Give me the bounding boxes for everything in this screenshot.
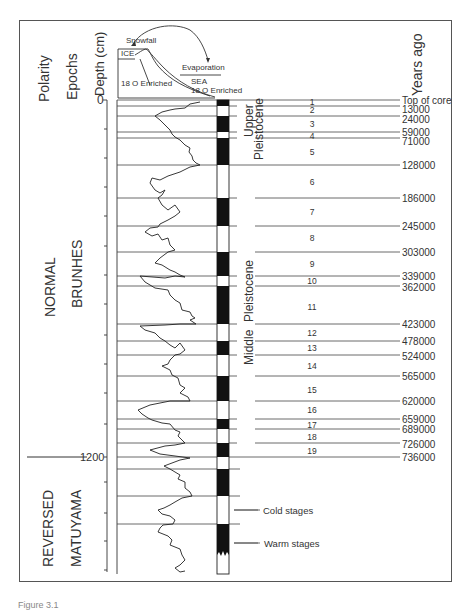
polarity-header: Polarity xyxy=(36,55,52,102)
age-label: 339000 xyxy=(402,271,435,282)
stage-label: 7 xyxy=(297,207,327,217)
age-label: 128000 xyxy=(402,160,435,171)
age-label: 71000 xyxy=(402,136,430,147)
stage-label: 6 xyxy=(297,177,327,187)
age-label: 478000 xyxy=(402,336,435,347)
stage-label: 12 xyxy=(297,328,327,338)
age-label: 689000 xyxy=(402,424,435,435)
sea-label: SEA xyxy=(191,77,207,86)
stage-label: 11 xyxy=(297,302,327,312)
stage-boundaries xyxy=(117,100,400,543)
years-ago-header: Years ago xyxy=(409,33,425,96)
age-label: 362000 xyxy=(402,282,435,293)
stage-label: 10 xyxy=(297,276,327,286)
stage-label: 5 xyxy=(297,147,327,157)
age-label: 565000 xyxy=(402,371,435,382)
stage-label: 3 xyxy=(297,119,327,129)
depth-zero-label: 0 xyxy=(97,93,104,107)
age-label: 726000 xyxy=(402,439,435,450)
middle-label: Middle xyxy=(242,330,256,365)
ice-enriched-label: 18 O Enriched xyxy=(121,79,172,88)
stage-label: 4 xyxy=(297,131,327,141)
isotope-curve xyxy=(138,102,200,572)
age-label: 423000 xyxy=(402,319,435,330)
ice-label: ICE xyxy=(121,49,134,58)
age-label: 24000 xyxy=(402,114,430,125)
evaporation-label: Evaporation xyxy=(182,63,225,72)
stage-bar xyxy=(217,100,229,574)
epoch-brunhes: BRUNHES xyxy=(69,240,85,308)
stage-label: 14 xyxy=(297,361,327,371)
epochs-header: Epochs xyxy=(64,53,80,100)
stage-label: 8 xyxy=(297,233,327,243)
stage-label: 19 xyxy=(297,446,327,456)
depth-header: Depth (cm) xyxy=(92,32,107,96)
legend-cold-stages: Cold stages xyxy=(263,505,313,516)
age-label: 736000 xyxy=(402,452,435,463)
epoch-matuyama: MATUYAMA xyxy=(68,490,84,567)
stage-label: 17 xyxy=(297,420,327,430)
polarity-reversed: REVERSED xyxy=(40,490,56,567)
polarity-normal: NORMAL xyxy=(42,257,58,317)
stage-label: 9 xyxy=(297,259,327,269)
depth-axis xyxy=(103,100,107,572)
middle-pleistocene-label: Pleistocene xyxy=(242,260,256,322)
snowfall-label: Snowfall xyxy=(126,36,156,45)
stage-label: 13 xyxy=(297,343,327,353)
stage-label: 2 xyxy=(297,105,327,115)
age-label: 303000 xyxy=(402,247,435,258)
stage-label: 16 xyxy=(297,405,327,415)
figure-caption: Figure 3.1 xyxy=(18,600,59,610)
upper-pleistocene-label: Pleistocene xyxy=(252,98,266,160)
depth-1200-label: 1200 xyxy=(80,451,104,463)
age-label: 186000 xyxy=(402,193,435,204)
age-label: 245000 xyxy=(402,221,435,232)
stage-label: 18 xyxy=(297,432,327,442)
age-label: 524000 xyxy=(402,351,435,362)
stage-label: 15 xyxy=(297,385,327,395)
age-label: 620000 xyxy=(402,396,435,407)
legend-warm-stages: Warm stages xyxy=(264,538,320,549)
sea-enriched-label: 18 O Enriched xyxy=(191,86,242,95)
